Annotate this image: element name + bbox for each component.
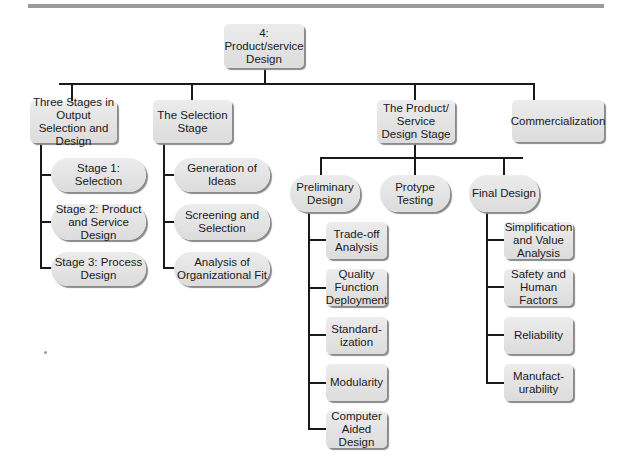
scan-artifact [44, 351, 47, 354]
node-manufacturability: Manufact- urability [504, 364, 573, 401]
node-selection-stage: The Selection Stage [153, 100, 232, 143]
node-computer-aided-design: Computer Aided Design [326, 411, 387, 448]
connector [486, 212, 488, 382]
node-root: 4: Product/service Design [224, 24, 304, 68]
node-analysis-organizational-fit: Analysis of Organizational Fit [174, 252, 270, 286]
connector [414, 83, 416, 100]
connector [308, 212, 310, 428]
node-reliability: Reliability [504, 317, 573, 354]
connector [320, 157, 523, 159]
node-safety-human-factors: Safety and Human Factors [504, 269, 573, 306]
connector [59, 83, 534, 85]
connector [320, 157, 322, 175]
node-generation-of-ideas: Generation of Ideas [174, 158, 270, 192]
connector [191, 83, 193, 100]
node-stage-2: Stage 2: Product and Service Design [51, 204, 146, 240]
connector [40, 143, 42, 267]
node-simplification-value-analysis: Simplification and Value Analysis [504, 222, 573, 259]
connector [503, 157, 505, 175]
connector [486, 334, 504, 336]
node-preliminary-design: Preliminary Design [290, 175, 360, 212]
connector [414, 157, 416, 175]
node-screening-selection: Screening and Selection [174, 204, 270, 240]
connector [486, 239, 504, 241]
node-quality-function-deployment: Quality Function Deployment [326, 269, 387, 306]
connector [308, 287, 326, 289]
connector [264, 68, 266, 84]
connector [308, 239, 326, 241]
connector [163, 143, 165, 267]
connector [486, 382, 504, 384]
connector [533, 83, 535, 100]
node-protype-testing: Protype Testing [380, 175, 450, 212]
node-stage-3: Stage 3: Process Design [51, 252, 146, 286]
node-commercialization: Commercialization [512, 100, 604, 142]
node-modularity: Modularity [326, 364, 387, 401]
connector [414, 143, 416, 158]
node-standardization: Standard- ization [326, 317, 387, 354]
node-product-service-design-stage: The Product/ Service Design Stage [377, 100, 455, 143]
connector [308, 382, 326, 384]
node-three-stages: Three Stages in Output Selection and Des… [30, 101, 117, 143]
node-final-design: Final Design [469, 175, 539, 212]
connector [308, 334, 326, 336]
connector [308, 428, 326, 430]
node-stage-1: Stage 1: Selection [51, 158, 146, 192]
connector [486, 286, 504, 288]
top-rule [28, 4, 604, 8]
node-trade-off-analysis: Trade-off Analysis [326, 222, 387, 259]
